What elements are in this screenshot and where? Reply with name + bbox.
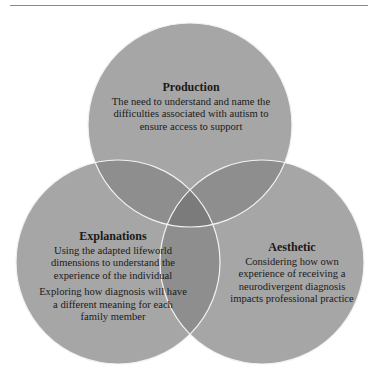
aesthetic-description: Considering how own experience of receiv…	[226, 256, 358, 306]
explanations-title: Explanations	[38, 230, 188, 243]
explanations-label: Explanations Using the adapted lifeworld…	[38, 230, 188, 324]
production-description: The need to understand and name the diff…	[105, 96, 277, 134]
aesthetic-label: Aesthetic Considering how own experience…	[226, 241, 358, 306]
aesthetic-title: Aesthetic	[226, 241, 358, 254]
explanations-description-2: Exploring how diagnosis will have a diff…	[38, 286, 188, 324]
explanations-description-1: Using the adapted lifeworld dimensions t…	[38, 245, 188, 283]
production-title: Production	[105, 81, 277, 94]
production-label: Production The need to understand and na…	[105, 81, 277, 133]
